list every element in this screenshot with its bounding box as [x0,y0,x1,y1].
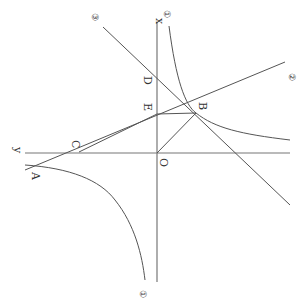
label-B: B [196,102,209,110]
label-line-2: ② [287,73,297,81]
label-D: D [141,76,154,85]
segment-OB [157,113,196,153]
diagram-canvas: x y O A B C D E ① ① ② ③ [0,0,303,303]
label-line-3: ③ [90,13,100,21]
label-E: E [141,103,154,111]
label-x-axis: x [153,18,166,25]
label-O: O [157,158,170,167]
segment-CE [79,114,157,152]
label-A: A [29,171,42,181]
hyperbola-branch-2 [25,165,145,280]
coordinate-diagram: x y O A B C D E ① ① ② ③ [0,0,303,303]
label-C: C [69,140,82,148]
label-curve-1-top: ① [162,10,172,18]
line-2 [25,62,285,170]
hyperbola-branch-1 [169,26,290,140]
label-curve-1-bottom: ① [138,290,148,298]
line-3 [103,27,290,205]
label-y-axis: y [11,146,24,154]
